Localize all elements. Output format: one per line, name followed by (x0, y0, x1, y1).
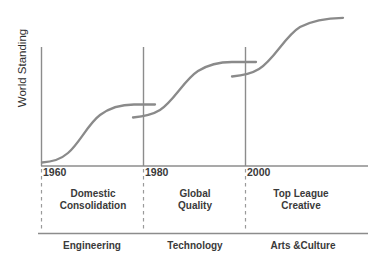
sector-label-arts-culture: Arts &Culture (248, 240, 358, 252)
phase-label-line1: Domestic (47, 188, 139, 200)
chart-canvas (0, 0, 385, 266)
y-axis-title: World Standing (16, 8, 28, 128)
x-tick-label-2000: 2000 (247, 166, 270, 179)
chart-container: World Standing 1960 1980 2000 Domestic C… (0, 0, 385, 266)
phase-label-global-quality: Global Quality (149, 188, 241, 212)
s-curve-domestic-consolidation (42, 105, 155, 163)
sector-label-technology: Technology (146, 240, 244, 252)
sector-label-engineering: Engineering (42, 240, 142, 252)
x-tick-label-1980: 1980 (145, 166, 168, 179)
phase-label-domestic-consolidation: Domestic Consolidation (47, 188, 139, 212)
s-curve-global-quality (133, 62, 256, 118)
x-tick-label-1960: 1960 (43, 166, 66, 179)
phase-label-line1: Global (149, 188, 241, 200)
phase-label-top-league-creative: Top League Creative (251, 188, 351, 212)
phase-label-line2: Quality (149, 200, 241, 212)
phase-label-line2: Creative (251, 200, 351, 212)
phase-label-line2: Consolidation (47, 200, 139, 212)
phase-label-line1: Top League (251, 188, 351, 200)
s-curve-top-league-creative (232, 18, 343, 77)
